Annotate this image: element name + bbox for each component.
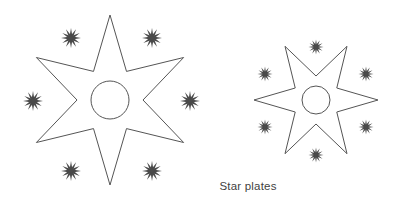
- figure-background: [0, 0, 397, 201]
- figure-caption: Star plates: [219, 180, 276, 192]
- sparkle-core: [188, 99, 192, 103]
- sparkle-core: [31, 99, 35, 103]
- sparkle-core: [69, 169, 73, 173]
- sparkle-core: [69, 36, 73, 40]
- sparkle-core: [263, 72, 266, 75]
- sparkle-core: [314, 45, 317, 48]
- sparkle-core: [150, 169, 154, 173]
- sparkle-core: [364, 72, 367, 75]
- star-plates-figure: Star plates: [0, 0, 397, 201]
- sparkle-core: [364, 125, 367, 128]
- sparkle-core: [263, 125, 266, 128]
- sparkle-core: [314, 153, 317, 156]
- figure-canvas: Star plates: [0, 0, 397, 201]
- sparkle-core: [150, 36, 154, 40]
